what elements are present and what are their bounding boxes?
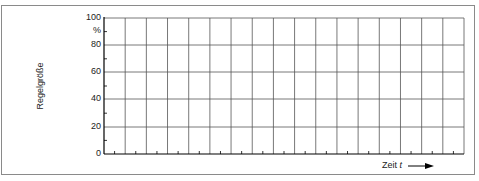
ytick-100: 100: [71, 12, 101, 22]
y-axis-label: Regelgröße: [35, 62, 45, 109]
arrow-right-icon: [407, 162, 435, 170]
ytick-20: 20: [71, 121, 101, 131]
ytick-60: 60: [71, 66, 101, 76]
ytick-80: 80: [71, 39, 101, 49]
y-unit-label: %: [71, 25, 101, 35]
x-axis-label: Zeit t: [382, 160, 433, 170]
ytick-0: 0: [71, 148, 101, 158]
ytick-40: 40: [71, 93, 101, 103]
